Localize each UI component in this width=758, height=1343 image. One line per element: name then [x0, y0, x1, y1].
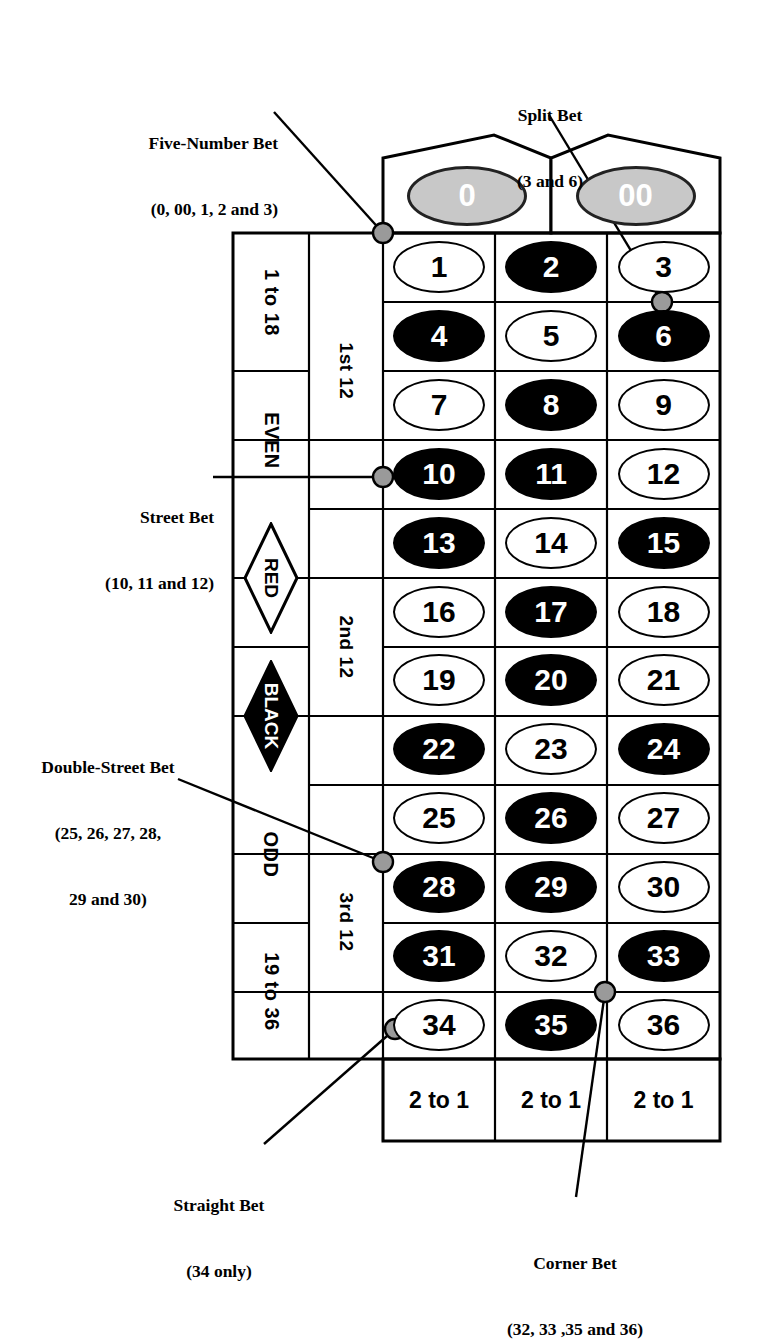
number-oval: 6 [618, 310, 710, 362]
outside-bet-even[interactable]: EVEN [233, 371, 309, 509]
number-oval: 18 [618, 586, 710, 638]
dozen-label: 1st 12 [335, 343, 357, 400]
number-oval: 33 [618, 930, 710, 982]
dozen-bet-1st-12[interactable]: 1st 12 [309, 233, 383, 509]
number-oval: 31 [393, 930, 485, 982]
number-oval: 24 [618, 723, 710, 775]
number-cell-19[interactable]: 19 [383, 646, 495, 715]
number-oval: 10 [393, 448, 485, 500]
number-cell-9[interactable]: 9 [607, 371, 720, 440]
number-cell-35[interactable]: 35 [495, 990, 607, 1059]
number-oval: 4 [393, 310, 485, 362]
number-oval: 7 [393, 379, 485, 431]
column-bet-2[interactable]: 2 to 1 [495, 1059, 607, 1141]
dozen-label: 3rd 12 [335, 893, 357, 952]
annotation-title: Straight Bet [116, 1194, 322, 1216]
number-oval: 16 [393, 586, 485, 638]
number-cell-1[interactable]: 1 [383, 233, 495, 302]
number-cell-28[interactable]: 28 [383, 852, 495, 921]
number-oval: 14 [505, 517, 597, 569]
number-cell-23[interactable]: 23 [495, 715, 607, 784]
number-cell-10[interactable]: 10 [383, 439, 495, 508]
annotation-title: Street Bet [0, 506, 214, 528]
number-cell-22[interactable]: 22 [383, 715, 495, 784]
number-cell-34[interactable]: 34 [383, 990, 495, 1059]
column-bet-label: 2 to 1 [409, 1087, 469, 1114]
number-cell-32[interactable]: 32 [495, 921, 607, 990]
number-oval: 8 [505, 379, 597, 431]
number-cell-18[interactable]: 18 [607, 577, 720, 646]
number-oval: 22 [393, 723, 485, 775]
number-cell-16[interactable]: 16 [383, 577, 495, 646]
number-cell-5[interactable]: 5 [495, 302, 607, 371]
number-cell-14[interactable]: 14 [495, 508, 607, 577]
annotation-street-bet: Street Bet (10, 11 and 12) [0, 462, 214, 638]
outside-bet-19-to-36[interactable]: 19 to 36 [233, 923, 309, 1059]
annotation-double-street-bet: Double-Street Bet (25, 26, 27, 28, 29 an… [0, 712, 220, 954]
annotation-detail: (25, 26, 27, 28, [0, 822, 220, 844]
number-cell-21[interactable]: 21 [607, 646, 720, 715]
number-cell-30[interactable]: 30 [607, 852, 720, 921]
number-oval: 23 [505, 723, 597, 775]
number-oval: 30 [618, 861, 710, 913]
number-cell-27[interactable]: 27 [607, 784, 720, 853]
number-cell-12[interactable]: 12 [607, 439, 720, 508]
black-diamond: BLACK [243, 660, 299, 772]
number-oval: 26 [505, 792, 597, 844]
outside-bet-label: 19 to 36 [260, 952, 283, 1030]
number-oval: 32 [505, 930, 597, 982]
number-oval: 36 [618, 999, 710, 1051]
number-cell-24[interactable]: 24 [607, 715, 720, 784]
annotation-five-number-bet: Five-Number Bet (0, 00, 1, 2 and 3) [20, 88, 278, 264]
number-oval: 34 [393, 999, 485, 1051]
number-cell-11[interactable]: 11 [495, 439, 607, 508]
number-cell-17[interactable]: 17 [495, 577, 607, 646]
number-oval: 21 [618, 654, 710, 706]
number-oval: 3 [618, 241, 710, 293]
number-oval: 13 [393, 517, 485, 569]
column-bet-label: 2 to 1 [521, 1087, 581, 1114]
number-cell-8[interactable]: 8 [495, 371, 607, 440]
outside-bet-black[interactable]: BLACK [233, 647, 309, 785]
dozen-bet-2nd-12[interactable]: 2nd 12 [309, 509, 383, 785]
column-bet-1[interactable]: 2 to 1 [383, 1059, 495, 1141]
number-cell-33[interactable]: 33 [607, 921, 720, 990]
number-oval: 17 [505, 586, 597, 638]
number-cell-31[interactable]: 31 [383, 921, 495, 990]
number-oval: 35 [505, 999, 597, 1051]
number-oval: 12 [618, 448, 710, 500]
annotation-title: Double-Street Bet [0, 756, 220, 778]
number-oval: 5 [505, 310, 597, 362]
column-bet-label: 2 to 1 [633, 1087, 693, 1114]
outside-bet-label: EVEN [260, 412, 283, 468]
number-cell-26[interactable]: 26 [495, 784, 607, 853]
outside-bet-label: ODD [259, 831, 282, 877]
dozen-bet-3rd-12[interactable]: 3rd 12 [309, 785, 383, 1059]
number-oval: 29 [505, 861, 597, 913]
number-cell-3[interactable]: 3 [607, 233, 720, 302]
number-oval: 27 [618, 792, 710, 844]
number-oval: 9 [618, 379, 710, 431]
number-cell-4[interactable]: 4 [383, 302, 495, 371]
annotation-detail: (34 only) [116, 1260, 322, 1282]
number-cell-13[interactable]: 13 [383, 508, 495, 577]
number-cell-29[interactable]: 29 [495, 852, 607, 921]
number-cell-20[interactable]: 20 [495, 646, 607, 715]
leader-five-number-bet [274, 112, 383, 233]
number-cell-36[interactable]: 36 [607, 990, 720, 1059]
number-cell-25[interactable]: 25 [383, 784, 495, 853]
annotation-detail: (10, 11 and 12) [0, 572, 214, 594]
number-cell-7[interactable]: 7 [383, 371, 495, 440]
outside-bet-odd[interactable]: ODD [233, 785, 309, 923]
column-bet-3[interactable]: 2 to 1 [607, 1059, 720, 1141]
red-diamond: RED [243, 522, 299, 634]
number-oval: 2 [505, 241, 597, 293]
outside-bet-label: 1 to 18 [259, 269, 282, 336]
number-cell-2[interactable]: 2 [495, 233, 607, 302]
number-cell-6[interactable]: 6 [607, 302, 720, 371]
dozen-label: 2nd 12 [335, 615, 357, 678]
number-cell-15[interactable]: 15 [607, 508, 720, 577]
annotation-straight-bet: Straight Bet (34 only) [116, 1150, 322, 1326]
outside-bet-red[interactable]: RED [233, 509, 309, 647]
